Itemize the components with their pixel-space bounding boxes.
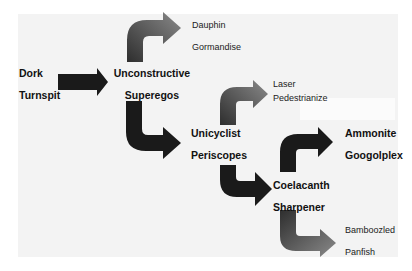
node-unicyclist-periscopes: Unicyclist Periscopes xyxy=(191,126,247,170)
node-unconstructive-superegos: Unconstructive Superegos xyxy=(108,66,196,110)
node-label-line1: Dork xyxy=(19,66,60,81)
node-label-line1: Unicyclist xyxy=(191,126,247,141)
arrow-right-icon xyxy=(58,68,108,96)
arrow-bend-down-right-icon xyxy=(220,165,272,206)
arrow-bend-up-right-icon xyxy=(220,80,268,125)
node-ammonite-googolplex: Ammonite Googolplex xyxy=(345,126,403,170)
node-label-line2: Pedestrianize xyxy=(273,92,328,104)
node-label-line2: Periscopes xyxy=(191,148,247,163)
node-dauphin-gormandise: Dauphin Gormandise xyxy=(192,18,241,62)
node-label-line1: Coelacanth xyxy=(273,178,330,193)
node-label-line1: Dauphin xyxy=(192,18,241,33)
arrow-bend-up-right-icon xyxy=(280,127,333,172)
node-label-line2: Superegos xyxy=(108,88,196,103)
node-label-line1: Ammonite xyxy=(345,126,403,141)
node-label-line2: Panfish xyxy=(345,245,395,260)
node-coelacanth-sharpener: Coelacanth Sharpener xyxy=(273,178,330,222)
node-label-line1: Unconstructive xyxy=(108,66,196,81)
node-label-line2: Turnspit xyxy=(19,88,60,103)
node-label-line1: Laser xyxy=(273,78,328,90)
node-label-line2: Googolplex xyxy=(345,148,403,163)
node-label-line2: Gormandise xyxy=(192,40,241,55)
node-bamboozled-panfish: Bamboozled Panfish xyxy=(345,223,395,267)
node-label-line1: Bamboozled xyxy=(345,223,395,238)
node-dork-turnspit: Dork Turnspit xyxy=(19,66,60,110)
node-laser-pedestrianize: Laser Pedestrianize xyxy=(273,78,328,111)
node-label-line2: Sharpener xyxy=(273,200,330,215)
arrow-bend-up-right-icon xyxy=(127,12,181,62)
